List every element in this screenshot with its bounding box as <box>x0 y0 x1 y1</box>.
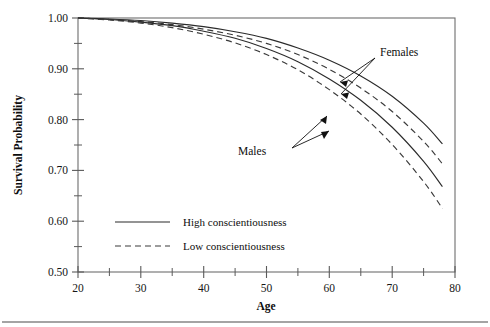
x-axis-title: Age <box>256 300 275 313</box>
y-tick-label-6: 0.50 <box>48 266 68 278</box>
legend-label-low: Low conscientiousness <box>183 240 285 252</box>
x-tick-label-4: 50 <box>261 282 273 294</box>
females-annotation-label: Females <box>380 46 419 58</box>
y-tick-label-3: 0.80 <box>48 114 68 126</box>
y-tick-label-4: 0.70 <box>48 164 68 176</box>
x-tick-label-1: 20 <box>72 282 84 294</box>
males-annotation-label: Males <box>238 145 267 157</box>
survival-probability-chart: 1.00 0.90 0.80 0.70 0.60 0.50 20 30 40 5… <box>0 0 490 327</box>
y-axis-title: Survival Probability <box>12 95 25 195</box>
x-tick-label-5: 60 <box>324 282 336 294</box>
x-tick-label-3: 40 <box>198 282 210 294</box>
y-tick-label-2: 0.90 <box>48 63 68 75</box>
legend-label-high: High conscientiousness <box>183 216 287 228</box>
x-tick-label-7: 80 <box>449 282 461 294</box>
chart-svg: 1.00 0.90 0.80 0.70 0.60 0.50 20 30 40 5… <box>0 0 490 327</box>
y-tick-label-1: 1.00 <box>48 12 68 24</box>
x-tick-label-2: 30 <box>135 282 147 294</box>
y-tick-label-5: 0.60 <box>48 215 68 227</box>
x-tick-label-6: 70 <box>386 282 398 294</box>
